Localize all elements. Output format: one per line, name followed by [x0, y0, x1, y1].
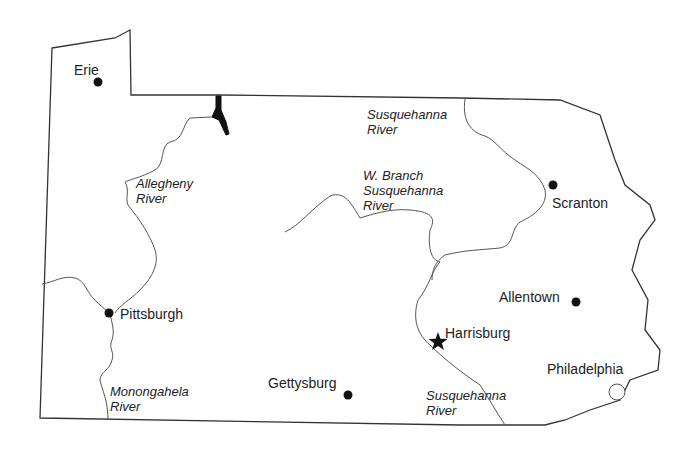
- allegheny-river: [115, 117, 212, 313]
- pittsburgh-marker: [105, 309, 114, 318]
- city-label-scranton: Scranton: [552, 195, 608, 211]
- city-label-erie: Erie: [74, 62, 99, 78]
- city-label-gettysburg: Gettysburg: [268, 375, 336, 391]
- philadelphia-marker: [609, 384, 625, 400]
- pennsylvania-map: [0, 0, 682, 452]
- gettysburg-marker: [344, 391, 353, 400]
- river-label-w-branch: W. Branch Susquehanna River: [363, 168, 443, 213]
- river-label-allegheny: Allegheny River: [136, 176, 193, 206]
- allentown-marker: [572, 298, 581, 307]
- river-label-susquehanna-south: Susquehanna River: [426, 388, 506, 418]
- city-label-harrisburg: Harrisburg: [445, 325, 510, 341]
- city-label-allentown: Allentown: [499, 289, 560, 305]
- ohio-river: [42, 277, 110, 313]
- river-label-susquehanna-north: Susquehanna River: [367, 107, 447, 137]
- city-label-pittsburgh: Pittsburgh: [120, 306, 183, 322]
- susquehanna-north: [432, 99, 545, 280]
- lake-inlet: [212, 96, 229, 135]
- scranton-marker: [549, 181, 558, 190]
- erie-marker: [94, 78, 103, 87]
- river-label-monongahela: Monongahela River: [110, 384, 189, 414]
- city-label-philadelphia: Philadelphia: [547, 361, 623, 377]
